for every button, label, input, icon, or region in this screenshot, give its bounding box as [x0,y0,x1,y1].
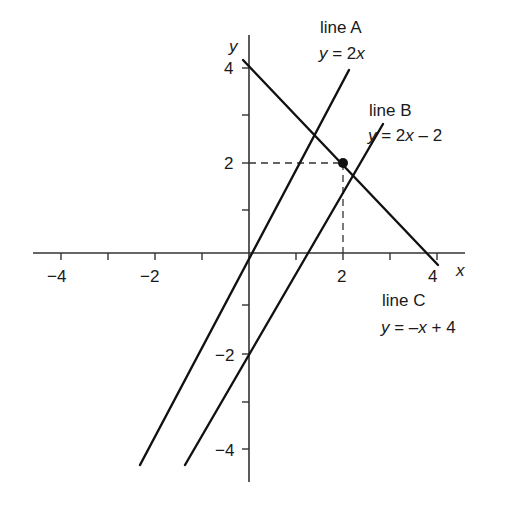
line-a [140,70,349,465]
line-b-name: line B [369,101,412,120]
x-axis-label: x [455,261,465,280]
x-tick-label-2: 2 [337,267,346,286]
line-a-equation: y = 2x [318,44,365,63]
dashed-guides [249,163,343,253]
line-a-name: line A [320,18,362,37]
y-tick-label-neg4: −4 [215,441,234,460]
intersection-point [338,158,348,168]
y-tick-label-4: 4 [224,59,233,78]
line-b-equation: y = 2x – 2 [367,126,442,145]
x-tick-label-neg4: −4 [47,267,66,286]
y-tick-label-neg2: −2 [215,346,234,365]
line-c-equation: y = –x + 4 [380,318,456,337]
plot-lines [140,60,438,465]
x-tick-label-4: 4 [428,267,437,286]
line-graph: −4 −2 2 4 4 2 −2 −4 x y line A y = 2x li… [0,0,509,506]
x-tick-label-neg2: −2 [140,267,159,286]
y-tick-label-2: 2 [224,154,233,173]
line-c-name: line C [382,291,425,310]
y-axis-label: y [228,37,239,56]
